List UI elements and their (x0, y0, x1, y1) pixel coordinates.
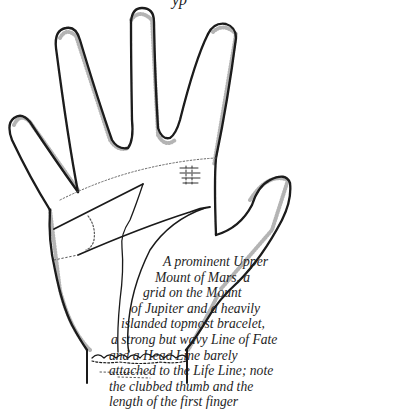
caption-line: islanded topmost bracelet, (121, 316, 395, 332)
caption-line: grid on the Mount (143, 285, 395, 301)
caption-line: attached to the Life Line; note (109, 363, 395, 379)
caption-line: the clubbed thumb and the (109, 379, 395, 395)
palm-left-edge (50, 210, 87, 350)
jupiter-grid (180, 166, 200, 186)
caption-line: length of the first finger (109, 394, 395, 410)
mount-of-mars-arc (86, 216, 94, 250)
caption-line: Mount of Mars, a (145, 270, 395, 286)
caption-line: of Jupiter and a heavily (131, 301, 395, 317)
heart-line-crease (60, 158, 216, 200)
ring-finger (56, 22, 133, 192)
middle-finger (131, 8, 208, 138)
caption-line: a strong but wavy Line of Fate (111, 332, 395, 348)
caption-line: and a Head Line barely (109, 348, 395, 364)
figure-caption: A prominent Upper Mount of Mars, a grid … (145, 254, 395, 410)
head-line (54, 184, 143, 229)
caption-line: A prominent Upper (145, 254, 395, 270)
